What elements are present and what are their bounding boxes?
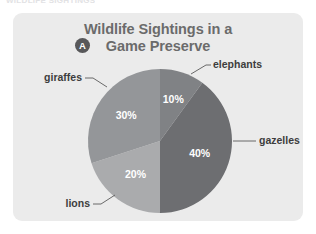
leader-line-elephants	[191, 65, 211, 74]
pie-value-label-gazelles: 40%	[189, 147, 211, 159]
pie-category-label-gazelles: gazelles	[259, 134, 300, 146]
pie-category-label-lions: lions	[65, 197, 90, 209]
leader-line-lions	[93, 195, 115, 204]
figure-card: Wildlife Sightings in a Game Preserve A …	[13, 13, 303, 221]
pie-value-label-giraffes: 30%	[116, 109, 138, 121]
clipped-header-text: WILDLIFE SIGHTINGS	[6, 0, 95, 3]
pie-slice-group	[88, 69, 232, 213]
leader-line-giraffes	[85, 78, 107, 87]
pie-category-label-giraffes: giraffes	[44, 71, 82, 83]
pie-chart-svg: 10%40%20%30% elephantsgazelleslionsgiraf…	[13, 13, 303, 221]
pie-category-label-elephants: elephants	[213, 58, 262, 70]
pie-value-label-lions: 20%	[125, 168, 147, 180]
pie-value-label-elephants: 10%	[163, 93, 185, 105]
pie-chart: 10%40%20%30% elephantsgazelleslionsgiraf…	[13, 13, 303, 221]
